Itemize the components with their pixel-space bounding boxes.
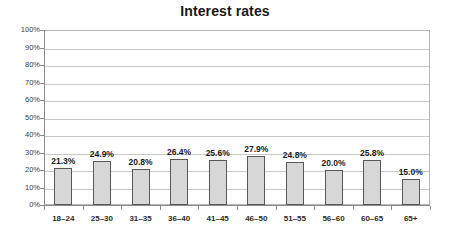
x-axis-tick-mark: [276, 206, 277, 210]
gridline: [45, 136, 429, 137]
x-axis-tick-mark: [83, 206, 84, 210]
bar-value-label: 25.8%: [347, 148, 397, 158]
x-axis-tick-mark: [160, 206, 161, 210]
bar: [363, 160, 381, 205]
bar: [93, 161, 111, 205]
x-axis-tick-mark: [353, 206, 354, 210]
gridline: [45, 66, 429, 67]
y-axis-line: [44, 30, 45, 206]
bar: [402, 179, 420, 205]
x-axis-tick-mark: [44, 206, 45, 210]
x-axis-tick-mark: [430, 206, 431, 210]
x-axis-tick-label: 65+: [386, 214, 436, 223]
y-axis-tick-label: 100%: [4, 26, 40, 34]
y-axis-tick-mark: [40, 83, 44, 84]
y-axis-tick-label: 40%: [4, 131, 40, 139]
bar: [325, 170, 343, 205]
y-axis-tick-label: 30%: [4, 149, 40, 157]
y-axis-tick-mark: [40, 118, 44, 119]
x-axis-tick-mark: [237, 206, 238, 210]
gridline: [45, 119, 429, 120]
x-axis-tick-mark: [391, 206, 392, 210]
gridline: [45, 101, 429, 102]
y-axis-tick-label: 70%: [4, 79, 40, 87]
y-axis-tick-mark: [40, 135, 44, 136]
bar: [170, 159, 188, 205]
gridline: [45, 49, 429, 50]
bar-value-label: 20.0%: [309, 158, 359, 168]
bar-chart: Interest rates 100%90%80%70%60%50%40%30%…: [0, 0, 450, 243]
x-axis-tick-mark: [121, 206, 122, 210]
y-axis-tick-label: 80%: [4, 61, 40, 69]
y-axis-tick-label: 60%: [4, 96, 40, 104]
bar: [247, 156, 265, 205]
y-axis-tick-mark: [40, 30, 44, 31]
bar: [54, 168, 72, 205]
y-axis-tick-mark: [40, 153, 44, 154]
y-axis-tick-label: 90%: [4, 44, 40, 52]
x-axis-tick-mark: [314, 206, 315, 210]
bar-value-label: 20.8%: [116, 157, 166, 167]
x-axis-tick-mark: [198, 206, 199, 210]
chart-title: Interest rates: [0, 3, 450, 19]
y-axis-tick-mark: [40, 48, 44, 49]
bar-value-label: 15.0%: [386, 167, 436, 177]
y-axis-tick-label: 50%: [4, 114, 40, 122]
y-axis-tick-label: 10%: [4, 184, 40, 192]
y-axis-tick-mark: [40, 170, 44, 171]
bar: [286, 162, 304, 205]
y-axis-tick-label: 20%: [4, 166, 40, 174]
bar: [132, 169, 150, 205]
y-axis-tick-mark: [40, 100, 44, 101]
y-axis-tick-label: 0%: [4, 201, 40, 209]
bar: [209, 160, 227, 205]
gridline: [45, 84, 429, 85]
y-axis-tick-mark: [40, 65, 44, 66]
y-axis-tick-mark: [40, 188, 44, 189]
